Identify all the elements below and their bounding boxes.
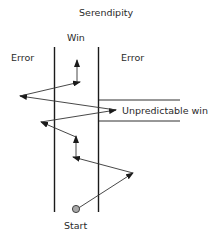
error-left-label: Error — [11, 52, 34, 63]
path-arrow-4 — [41, 122, 76, 137]
path-arrow-1 — [77, 173, 133, 209]
start-point — [72, 205, 79, 212]
diagram-title: Serendipity — [79, 7, 134, 18]
path-arrow-7 — [20, 82, 80, 96]
path-arrow-2 — [73, 157, 133, 173]
path-arrow-6 — [20, 96, 116, 110]
start-label: Start — [64, 220, 87, 231]
error-right-label: Error — [121, 52, 144, 63]
unpredictable-win-label: Unpredictable win — [122, 105, 208, 116]
serendipity-diagram: Serendipity Win Error Error Unpredictabl… — [0, 0, 217, 240]
path-arrow-5 — [41, 110, 116, 122]
win-label: Win — [67, 32, 85, 43]
